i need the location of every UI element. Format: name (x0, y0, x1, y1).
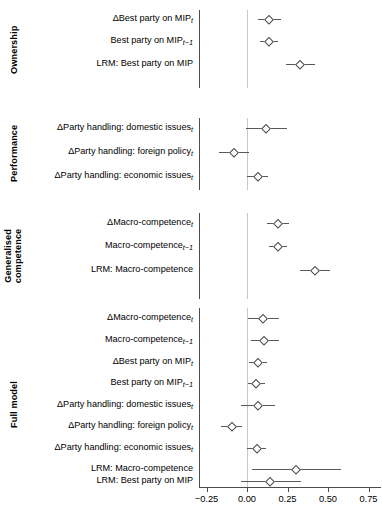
row-label: ΔParty handling: economic issuest (0, 442, 197, 453)
point-estimate-marker (229, 147, 239, 157)
row-label: ΔParty handling: domestic issuest (0, 399, 197, 410)
point-estimate-marker (273, 218, 283, 228)
panel-left-frame-2 (199, 118, 200, 190)
row-label: LRM: Best party on MIP (0, 58, 197, 68)
point-estimate-marker (252, 400, 262, 410)
row-label: Macro-competencet−1 (0, 334, 197, 345)
group-title-line-1: competence (14, 229, 24, 284)
x-axis-tick-label-4: 0.75 (359, 494, 377, 504)
point-estimate-marker (258, 313, 268, 323)
x-axis-tick-label-0: −0.25 (195, 494, 219, 504)
point-estimate-marker (273, 241, 283, 251)
panel-left-frame-3 (199, 213, 200, 299)
x-axis-tick-0 (207, 488, 208, 492)
point-estimate-marker (226, 421, 236, 431)
panel-left-frame-1 (199, 10, 200, 88)
point-estimate-marker (295, 59, 305, 69)
x-axis-tick-label-3: 0.50 (319, 494, 337, 504)
zero-reference-line-1 (247, 10, 248, 88)
point-estimate-marker (265, 476, 275, 486)
x-axis-line (199, 487, 381, 488)
point-estimate-marker (264, 14, 274, 24)
row-label: ΔBest party on MIPt (0, 356, 197, 367)
row-label: LRM: Macro-competence (0, 463, 197, 473)
point-estimate-marker (291, 464, 301, 474)
x-axis-tick-1 (247, 488, 248, 492)
x-axis-tick-label-2: 0.25 (278, 494, 296, 504)
x-axis-tick-4 (369, 488, 370, 492)
x-axis-tick-3 (328, 488, 329, 492)
zero-reference-line-4 (247, 308, 248, 487)
point-estimate-marker (310, 265, 320, 275)
x-axis-tick-label-1: 0.00 (238, 494, 256, 504)
point-estimate-marker (264, 36, 274, 46)
row-label: Best party on MIPt−1 (0, 377, 197, 388)
row-label: ΔParty handling: foreign policyt (0, 146, 197, 157)
row-label: Macro-competencet−1 (0, 240, 197, 251)
row-label: ΔMacro-competencet (0, 217, 197, 228)
row-label: ΔMacro-competencet (0, 312, 197, 323)
zero-reference-line-3 (247, 213, 248, 299)
panel-left-frame-4 (199, 308, 200, 487)
point-estimate-marker (251, 378, 261, 388)
row-label: ΔBest party on MIPt (0, 13, 197, 24)
point-estimate-marker (261, 123, 271, 133)
forest-plot: −0.250.000.250.500.75OwnershipΔBest part… (0, 0, 382, 518)
row-label: LRM: Macro-competence (0, 264, 197, 274)
row-label: ΔParty handling: domestic issuest (0, 122, 197, 133)
point-estimate-marker (253, 357, 263, 367)
point-estimate-marker (251, 443, 261, 453)
row-label: ΔParty handling: foreign policyt (0, 420, 197, 431)
point-estimate-marker (259, 335, 269, 345)
row-label: ΔParty handling: economic issuest (0, 170, 197, 181)
row-label: Best party on MIPt−1 (0, 35, 197, 46)
point-estimate-marker (252, 171, 262, 181)
x-axis-tick-2 (288, 488, 289, 492)
row-label: LRM: Best party on MIP (0, 475, 197, 485)
